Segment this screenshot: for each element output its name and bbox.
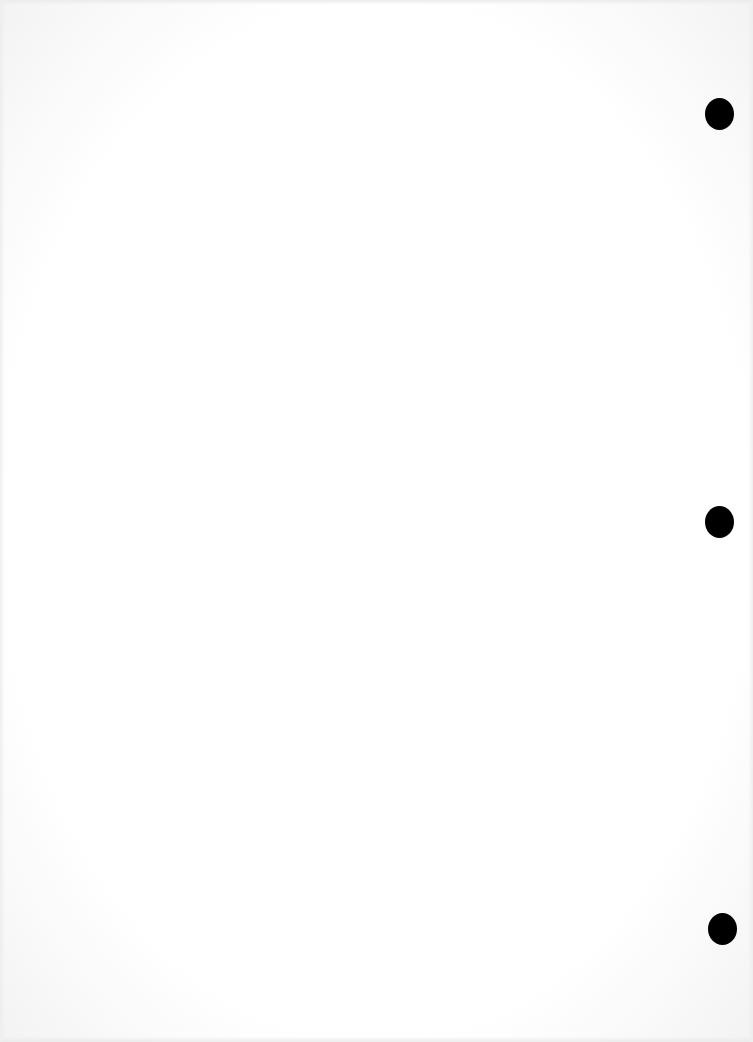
page-edge-top [0, 0, 753, 4]
page-edge-right [749, 0, 753, 1042]
punch-hole-top [705, 98, 734, 130]
page-edge-left [0, 0, 4, 1042]
punch-hole-bottom [708, 913, 737, 945]
scanned-page [0, 0, 753, 1042]
page-edge-bottom [0, 1037, 753, 1042]
punch-hole-middle [705, 506, 734, 538]
